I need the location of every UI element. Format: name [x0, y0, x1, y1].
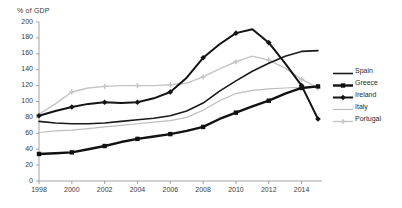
x-tick-label: 2000 — [57, 186, 87, 193]
legend-item-portugal[interactable]: Portugal — [333, 112, 381, 124]
legend-swatch-icon — [333, 89, 353, 100]
legend-swatch-icon — [333, 101, 353, 112]
y-tick-label: 120 — [11, 81, 33, 88]
legend-label: Italy — [355, 103, 368, 110]
x-tick-label: 2010 — [221, 186, 251, 193]
series-ireland — [36, 29, 321, 122]
chart-legend: SpainGreeceIrelandItalyPortugal — [333, 64, 381, 124]
y-tick-label: 180 — [11, 33, 33, 40]
y-tick-label: 160 — [11, 49, 33, 56]
x-tick-label: 2004 — [122, 186, 152, 193]
legend-swatch-icon — [333, 113, 353, 124]
legend-item-italy[interactable]: Italy — [333, 100, 381, 112]
series-portugal — [36, 56, 320, 117]
y-tick-label: 80 — [11, 113, 33, 120]
legend-label: Spain — [355, 67, 373, 74]
legend-label: Ireland — [355, 91, 376, 98]
series-greece — [37, 84, 320, 156]
legend-item-greece[interactable]: Greece — [333, 76, 381, 88]
legend-swatch-icon — [333, 65, 353, 76]
series-italy — [39, 87, 318, 132]
x-tick-label: 2012 — [254, 186, 284, 193]
x-tick-label: 2002 — [90, 186, 120, 193]
legend-label: Portugal — [355, 115, 381, 122]
y-tick-label: 40 — [11, 145, 33, 152]
y-tick-label: 100 — [11, 97, 33, 104]
x-tick-label: 1998 — [24, 186, 54, 193]
y-tick-label: 140 — [11, 65, 33, 72]
legend-swatch-icon — [333, 77, 353, 88]
legend-item-ireland[interactable]: Ireland — [333, 88, 381, 100]
legend-item-spain[interactable]: Spain — [333, 64, 381, 76]
series-spain — [39, 51, 318, 124]
y-tick-label: 60 — [11, 129, 33, 136]
legend-label: Greece — [355, 79, 378, 86]
y-tick-label: 200 — [11, 18, 33, 25]
x-tick-label: 2014 — [287, 186, 317, 193]
chart-container: % of GDP 200180160140120100806040200 199… — [0, 0, 402, 208]
x-tick-label: 2008 — [188, 186, 218, 193]
x-tick-label: 2006 — [155, 186, 185, 193]
y-tick-label: 20 — [11, 161, 33, 168]
y-tick-label: 0 — [11, 177, 33, 184]
